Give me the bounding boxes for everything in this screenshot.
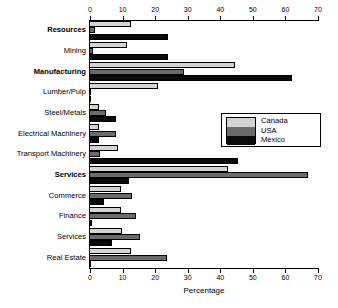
bar-usa-commerce <box>90 193 132 199</box>
x-tick-label-bot-10: 10 <box>111 274 135 282</box>
bar-canada-resources <box>90 21 131 27</box>
legend-swatch-canada <box>227 118 255 127</box>
bar-mexico-services <box>90 178 129 184</box>
x-tick-label-top-60: 60 <box>273 6 297 14</box>
category-label-resources: Resources <box>0 25 86 34</box>
bar-canada-mining <box>90 42 127 48</box>
bar-usa-steel-metals <box>90 110 106 116</box>
x-tick-label-top-70: 70 <box>306 6 330 14</box>
x-tick-label-bot-50: 50 <box>241 274 265 282</box>
x-tick-top-70 <box>318 16 319 20</box>
bar-mexico-transport-machinery <box>90 158 238 164</box>
x-tick-bot-40 <box>220 269 221 273</box>
x-tick-bot-70 <box>318 269 319 273</box>
bar-canada-services <box>90 228 122 234</box>
category-label-transport-machinery: Transport Machinery <box>0 149 86 158</box>
bar-canada-lumber-pulp <box>90 83 158 89</box>
bar-mexico-steel-metals <box>90 116 116 122</box>
category-label-commerce: Commerce <box>0 191 86 200</box>
bar-canada-real-estate <box>90 248 131 254</box>
category-label-services: Services <box>0 170 86 179</box>
legend-label-canada: Canada <box>261 116 288 126</box>
legend-swatch-mexico <box>227 136 255 145</box>
bar-usa-transport-machinery <box>90 151 100 157</box>
bar-canada-electrical-machinery <box>90 124 99 130</box>
x-tick-bot-30 <box>188 269 189 273</box>
bar-mexico-commerce <box>90 199 104 205</box>
bar-mexico-manufacturing <box>90 75 292 81</box>
legend-swatch-stack <box>226 117 256 144</box>
bar-canada-commerce <box>90 186 121 192</box>
bar-usa-electrical-machinery <box>90 131 116 137</box>
x-tick-label-bot-70: 70 <box>306 274 330 282</box>
bar-mexico-mining <box>90 54 168 60</box>
x-tick-label-bot-40: 40 <box>208 274 232 282</box>
bar-mexico-electrical-machinery <box>90 137 99 143</box>
x-tick-label-top-30: 30 <box>176 6 200 14</box>
bar-usa-manufacturing <box>90 69 184 75</box>
x-tick-label-top-0: 0 <box>78 6 102 14</box>
bar-mexico-finance <box>90 220 92 226</box>
x-tick-bot-60 <box>285 269 286 273</box>
category-label-steel-metals: Steel/Metals <box>0 108 86 117</box>
category-label-finance: Finance <box>0 211 86 220</box>
x-tick-label-top-10: 10 <box>111 6 135 14</box>
legend-swatch-usa <box>227 127 255 136</box>
bar-chart: 001010202030304040505060607070 Resources… <box>0 0 338 308</box>
x-tick-label-bot-60: 60 <box>273 274 297 282</box>
bar-usa-mining <box>90 48 93 54</box>
x-tick-label-top-50: 50 <box>241 6 265 14</box>
bar-mexico-real-estate <box>90 261 91 267</box>
bar-usa-services <box>90 172 308 178</box>
x-tick-bot-10 <box>123 269 124 273</box>
x-tick-bot-50 <box>253 269 254 273</box>
bar-canada-manufacturing <box>90 62 235 68</box>
x-tick-bot-0 <box>90 269 91 273</box>
x-tick-bot-20 <box>155 269 156 273</box>
category-label-services: Services <box>0 232 86 241</box>
legend-label-list: Canada USA Mexico <box>261 116 288 145</box>
x-axis-label: Percentage <box>90 286 318 295</box>
bar-mexico-services <box>90 240 112 246</box>
x-tick-label-bot-20: 20 <box>143 274 167 282</box>
chart-legend: Canada USA Mexico <box>221 113 321 147</box>
bar-usa-finance <box>90 213 136 219</box>
bar-usa-services <box>90 234 140 240</box>
bar-mexico-resources <box>90 34 168 40</box>
bar-usa-resources <box>90 27 95 33</box>
bar-usa-real-estate <box>90 255 167 261</box>
category-label-electrical-machinery: Electrical Machinery <box>0 129 86 138</box>
legend-label-usa: USA <box>261 126 288 136</box>
bar-canada-transport-machinery <box>90 145 118 151</box>
x-tick-label-bot-30: 30 <box>176 274 200 282</box>
category-label-real-estate: Real Estate <box>0 253 86 262</box>
bar-mexico-lumber-pulp <box>90 96 91 102</box>
x-tick-label-top-20: 20 <box>143 6 167 14</box>
x-tick-label-top-40: 40 <box>208 6 232 14</box>
bar-canada-services <box>90 166 228 172</box>
legend-label-mexico: Mexico <box>261 135 288 145</box>
bar-usa-lumber-pulp <box>90 89 91 95</box>
category-label-mining: Mining <box>0 46 86 55</box>
x-tick-label-bot-0: 0 <box>78 274 102 282</box>
category-label-lumber-pulp: Lumber/Pulp <box>0 87 86 96</box>
bar-canada-steel-metals <box>90 104 99 110</box>
bar-canada-finance <box>90 207 121 213</box>
category-label-manufacturing: Manufacturing <box>0 67 86 76</box>
